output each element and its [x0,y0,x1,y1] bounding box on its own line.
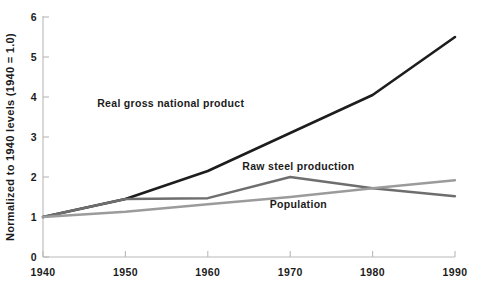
x-tick-label: 1950 [113,266,138,278]
x-tick-label: 1980 [360,266,385,278]
series-group [43,37,455,217]
y-tick-label: 3 [31,131,37,143]
series-label-2: Population [270,198,327,210]
y-tick-label: 5 [31,51,37,63]
x-tick-label: 1990 [443,266,468,278]
y-axis-title-group: Normalized to 1940 levels (1940 = 1.0) [4,33,16,241]
chart-container: 0123456194019501960197019801990 Real gro… [0,0,477,293]
series-label-0: Real gross national product [97,97,244,109]
y-tick-label: 2 [31,171,37,183]
line-chart-plot: 0123456194019501960197019801990 Real gro… [0,0,477,293]
series-line-1 [43,177,455,217]
x-tick-label: 1970 [278,266,303,278]
series-label-1: Raw steel production [242,160,354,172]
series-line-2 [43,180,455,217]
y-tick-label: 0 [31,251,37,263]
y-axis-title: Normalized to 1940 levels (1940 = 1.0) [4,33,16,241]
axes-group: 0123456194019501960197019801990 [31,11,468,278]
y-tick-label: 1 [31,211,37,223]
x-tick-label: 1940 [31,266,56,278]
y-tick-label: 6 [31,11,37,23]
y-tick-label: 4 [31,91,37,103]
x-tick-label: 1960 [195,266,220,278]
